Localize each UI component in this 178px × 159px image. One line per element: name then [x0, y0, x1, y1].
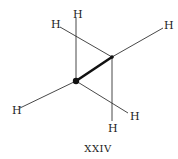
bond-back-upper-left	[60, 27, 112, 57]
bond-front-left	[20, 81, 76, 108]
front-carbon-atom	[73, 78, 79, 84]
hydrogen-lower-right: H	[130, 110, 140, 123]
sawhorse-diagram: H H H H H H XXIV	[0, 0, 178, 159]
carbon-carbon-bond	[76, 57, 112, 81]
bond-front-lower-right	[76, 81, 128, 113]
hydrogen-bottom: H	[108, 122, 118, 135]
hydrogen-left: H	[12, 104, 22, 117]
figure-caption: XXIV	[84, 143, 112, 154]
back-carbon-atom	[110, 55, 114, 59]
hydrogen-upper-right: H	[164, 19, 174, 32]
hydrogen-upper-left: H	[51, 18, 61, 31]
hydrogen-top: H	[73, 8, 83, 21]
bond-back-upper-right	[112, 28, 163, 57]
